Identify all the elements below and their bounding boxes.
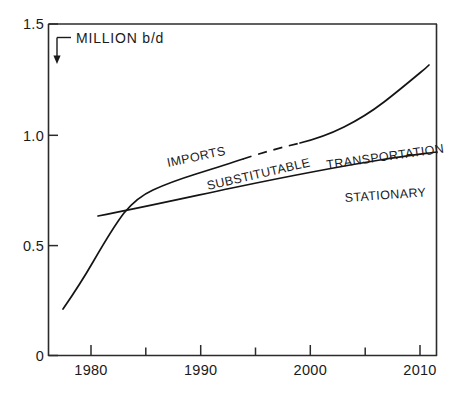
unit-annotation-group: MILLION b/d	[53, 30, 164, 65]
unit-annotation-arrowhead	[53, 56, 60, 65]
series-label-substitutable: SUBSTITUTABLE	[206, 156, 312, 193]
y-tick-label-0_5: 0.5	[23, 238, 44, 254]
series-label-stationary: STATIONARY	[344, 185, 427, 205]
x-tick-label-2010: 2010	[403, 362, 436, 378]
series-label-stationary-group: STATIONARY	[344, 185, 427, 205]
y-tick-label-0: 0	[36, 348, 44, 364]
series-imports-segment-dashed	[243, 143, 300, 159]
y-tick-label-1_0: 1.0	[23, 128, 44, 144]
series-imports-segment-b	[300, 65, 429, 143]
x-tick-label-2000: 2000	[294, 362, 327, 378]
unit-annotation-label: MILLION b/d	[76, 30, 164, 46]
series-label-transportation-group: TRANSPORTATION	[325, 142, 445, 172]
x-axis-tick-labels: 1980 1990 2000 2010	[74, 362, 436, 378]
series-label-imports: IMPORTS	[166, 144, 227, 170]
x-tick-label-1990: 1990	[184, 362, 217, 378]
series-label-transportation: TRANSPORTATION	[325, 142, 445, 172]
y-tick-label-1_5: 1.5	[23, 16, 44, 32]
y-axis-ticks	[49, 24, 59, 356]
chart-canvas: 1.5 1.0 0.5 0 1980 1990 2000 2010	[0, 0, 461, 396]
chart-figure: 1.5 1.0 0.5 0 1980 1990 2000 2010	[0, 0, 461, 396]
y-axis-tick-labels: 1.5 1.0 0.5 0	[23, 16, 44, 364]
x-tick-label-1980: 1980	[74, 362, 107, 378]
x-axis-ticks	[91, 345, 420, 356]
series-label-substitutable-group: SUBSTITUTABLE	[206, 156, 312, 193]
series-label-imports-group: IMPORTS	[166, 144, 227, 170]
